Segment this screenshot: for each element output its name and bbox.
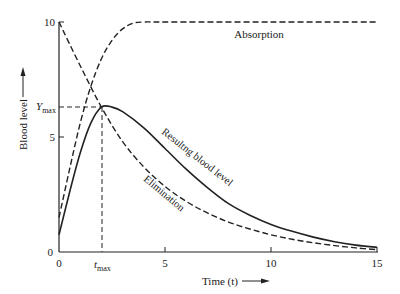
y-tick-label-10: 10: [44, 16, 56, 28]
x-tick-label-10: 10: [266, 257, 278, 269]
tmax-label: tmax: [94, 258, 111, 273]
y-tick-label-0: 0: [48, 246, 54, 258]
x-tick-label-0: 0: [56, 257, 62, 269]
x-tick-label-15: 15: [372, 257, 384, 269]
elimination-curve: [59, 22, 377, 250]
absorption-label: Absorption: [234, 28, 284, 40]
svg-text:Blood level: Blood level: [17, 99, 29, 150]
x-tick-label-5: 5: [162, 257, 168, 269]
absorption-curve: [59, 22, 377, 218]
svg-text:Time (t): Time (t): [202, 275, 238, 288]
elimination-label: Elimination: [142, 173, 188, 214]
y-tick-label-5: 5: [50, 131, 56, 143]
x-axis-title: Time (t): [202, 275, 270, 288]
blood-level-chart: 0 5 10 15 0 5 10 tmax Ymax Time (t) Bloo…: [0, 0, 400, 294]
ymax-label: Ymax: [36, 100, 56, 115]
y-axis-title: Blood level: [17, 67, 29, 150]
